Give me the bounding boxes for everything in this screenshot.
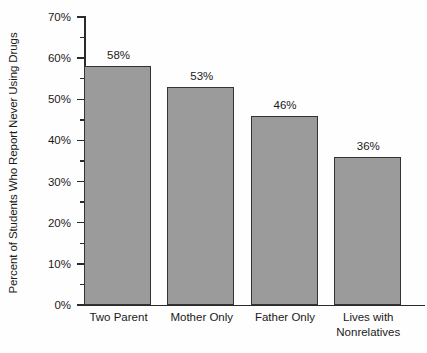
bar-chart: Percent of Students Who Report Never Usi… bbox=[0, 0, 427, 353]
x-category-label: Lives withNonrelatives bbox=[321, 310, 416, 339]
x-category-label: Two Parent bbox=[71, 310, 166, 325]
bar-value-label: 58% bbox=[75, 49, 162, 62]
y-tick-label-wrap: 10% bbox=[27, 258, 71, 270]
y-tick-label-wrap: 60% bbox=[27, 52, 71, 64]
y-tick-label: 70% bbox=[27, 11, 71, 23]
y-tick-label-wrap: 70% bbox=[27, 11, 71, 23]
bar bbox=[251, 116, 318, 305]
x-category-label-line: Nonrelatives bbox=[321, 325, 416, 340]
y-tick-label-wrap: 0% bbox=[27, 299, 71, 311]
x-category-label-line: Lives with bbox=[321, 310, 416, 325]
y-tick-label: 40% bbox=[27, 134, 71, 146]
x-category-label-line: Two Parent bbox=[71, 310, 166, 325]
bar-value-label: 53% bbox=[158, 70, 245, 83]
y-tick-label: 0% bbox=[27, 299, 71, 311]
y-tick-major bbox=[77, 99, 84, 101]
y-tick-major bbox=[77, 16, 84, 18]
y-tick-label: 50% bbox=[27, 93, 71, 105]
y-tick-label: 60% bbox=[27, 52, 71, 64]
y-tick-label: 30% bbox=[27, 176, 71, 188]
bar bbox=[84, 66, 151, 305]
y-tick-label: 10% bbox=[27, 258, 71, 270]
y-tick-label-wrap: 50% bbox=[27, 93, 71, 105]
x-category-label: Father Only bbox=[238, 310, 333, 325]
x-category-label-line: Father Only bbox=[238, 310, 333, 325]
y-tick-major bbox=[77, 304, 84, 306]
x-category-label-line: Mother Only bbox=[154, 310, 249, 325]
y-axis-title: Percent of Students Who Report Never Usi… bbox=[2, 8, 24, 318]
y-tick-major bbox=[77, 263, 84, 265]
y-tick-label-wrap: 30% bbox=[27, 176, 71, 188]
bar-value-label: 36% bbox=[325, 140, 412, 153]
y-tick-label-wrap: 40% bbox=[27, 134, 71, 146]
bar bbox=[167, 87, 234, 305]
y-tick-major bbox=[77, 222, 84, 224]
bar-value-label: 46% bbox=[242, 99, 329, 112]
y-tick-label: 20% bbox=[27, 217, 71, 229]
y-tick-major bbox=[77, 140, 84, 142]
y-tick-major bbox=[77, 181, 84, 183]
bar bbox=[334, 157, 401, 305]
y-tick-label-wrap: 20% bbox=[27, 217, 71, 229]
x-category-label: Mother Only bbox=[154, 310, 249, 325]
